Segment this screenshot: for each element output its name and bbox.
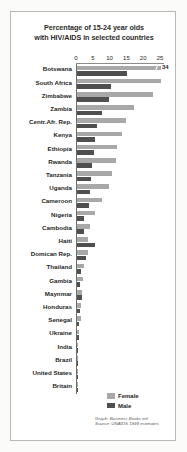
category-label-kenya: Kenya [53,131,72,138]
bar-male [77,243,95,248]
category-label-cambodia: Cambodia [42,224,72,231]
bar-male [77,361,78,366]
chart-title-line-2: with HIV/AIDS in selected countries [18,33,170,43]
category-label-south-africa: South Africa [35,79,72,86]
bar-row: Uganda [76,183,160,196]
bar-male [77,256,86,261]
category-label-ukraine: Ukraine [49,329,72,336]
bar-row: Honduras [76,302,160,315]
x-tick-label-10: 10 [106,55,113,61]
bar-male [77,375,78,380]
bar-female [77,66,161,71]
category-label-zimbabwe: Zimbabwe [42,92,72,99]
bar-female [77,145,117,150]
category-label-cameroon: Cameroon [41,197,72,204]
bar-female [77,316,81,321]
bar-row: South Africa [76,77,160,90]
category-label-haiti: Haiti [59,237,72,244]
bar-male [77,84,111,89]
credit-line-2: Source: UNAIDS 1999 estimates [95,421,175,426]
chart-legend: FemaleMale [107,392,139,411]
category-label-tanzania: Tanzania [46,171,72,178]
bar-row: Cambodia [76,222,160,235]
bar-male [77,335,79,340]
bar-row: Zambia [76,104,160,117]
bar-male [77,150,94,155]
category-label-ethiopia: Ethiopia [48,145,72,152]
category-label-india: India [58,343,72,350]
bar-female [77,79,161,84]
x-tick-label-15: 15 [123,55,130,61]
bar-female [77,105,134,110]
category-label-centr-afr-rep: Centr.Afr. Rep. [29,118,72,125]
category-label-domican-rep: Domican Rep. [31,250,72,257]
bar-female [77,158,116,163]
bar-female [77,184,109,189]
category-label-britain: Britain [52,382,72,389]
bar-male [77,269,81,274]
bar-row: Zimbabwe [76,90,160,103]
bar-female [77,211,95,216]
x-tick-label-20: 20 [140,55,147,61]
legend-swatch-male [107,403,115,409]
bar-row: Domican Rep. [76,249,160,262]
bar-row: Gambia [76,275,160,288]
bar-row: Rwanda [76,156,160,169]
bar-row: Ethiopia [76,143,160,156]
category-label-united-states: United States [32,369,72,376]
chart-title-line-1: Percentage of 15-24 year olds [18,23,170,33]
bar-row: Senegal [76,315,160,328]
bar-row: Cameroon [76,196,160,209]
chart-credit: Graph: Business Books intlSource: UNAIDS… [95,416,175,427]
x-tick-label-5: 5 [91,55,94,61]
bar-male [77,388,78,393]
bar-male [77,137,95,142]
bar-male [77,163,92,168]
x-tick-label-0: 0 [74,55,77,61]
category-label-uganda: Uganda [49,184,72,191]
x-tick-label-25: 25 [157,55,164,61]
bar-female [77,118,126,123]
bar-row: Nigeria [76,209,160,222]
bar-female [77,290,82,295]
bar-row: Tanzania [76,170,160,183]
bar-row: United States [76,368,160,381]
bar-female [77,198,102,203]
bar-row: Thailand [76,262,160,275]
category-label-gambia: Gambia [49,277,72,284]
value-label-overflow: 34 [162,64,169,70]
bar-male [77,322,79,327]
bar-female [77,382,78,387]
bar-female [77,237,88,242]
bar-male [77,282,80,287]
category-label-zambia: Zambia [50,105,72,112]
bar-female [77,171,112,176]
bar-female [77,92,153,97]
bar-female [77,132,122,137]
category-label-honduras: Honduras [43,303,72,310]
bar-row: India [76,341,160,354]
bar-male [77,348,78,353]
bar-row: Maynmar [76,288,160,301]
bar-male [77,177,91,182]
chart-figure: Percentage of 15-24 year olds with HIV/A… [0,0,187,452]
legend-swatch-female [107,393,115,399]
category-label-brazil: Brazil [55,356,72,363]
bar-male [77,97,109,102]
legend-label-male: Male [118,403,131,409]
bar-female [77,356,78,361]
legend-label-female: Female [118,393,139,399]
bar-row: Centr.Afr. Rep. [76,117,160,130]
bar-female [77,343,78,348]
bar-row: Botswana34 [76,64,160,77]
category-label-maynmar: Maynmar [45,290,72,297]
legend-item-female: Female [107,392,139,400]
category-label-thailand: Thailand [47,263,72,270]
legend-item-male: Male [107,402,139,410]
bar-male [77,71,127,76]
bar-female [77,264,84,269]
category-label-rwanda: Rwanda [48,158,72,165]
bar-male [77,229,84,234]
bar-male [77,111,102,116]
bar-female [77,250,88,255]
